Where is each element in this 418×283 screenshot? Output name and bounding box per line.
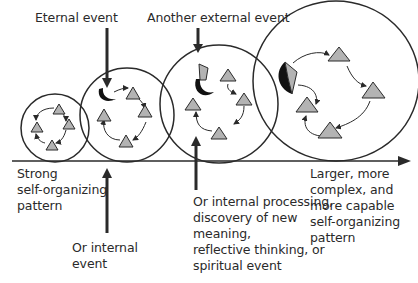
another-external-event-arrow <box>193 28 203 53</box>
triangle-icon <box>328 47 350 61</box>
crescent-icon <box>99 88 116 101</box>
external-event-label: Eternal event <box>35 10 118 26</box>
internal-event-label: Or internal event <box>72 240 138 272</box>
triangle-icon <box>53 104 65 114</box>
stage-3-circle <box>160 45 278 163</box>
triangle-icon <box>63 119 75 129</box>
crescent-icon <box>195 79 214 95</box>
triangle-icon <box>362 82 385 98</box>
another-external-event-label: Another external event <box>147 10 290 26</box>
triangle-icon <box>236 93 252 105</box>
triangle-icon <box>296 97 318 112</box>
end-pattern-label: Larger, more complex, and more capable s… <box>310 166 400 246</box>
triangle-icon <box>185 98 201 110</box>
internal-processing-arrow <box>191 136 201 190</box>
triangle-icon <box>31 122 43 132</box>
triangle-icon <box>97 109 111 121</box>
start-pattern-label: Strong self-organizing pattern <box>17 166 107 214</box>
triangle-icon <box>126 87 140 99</box>
triangle-icon <box>46 140 58 150</box>
triangle-icon <box>211 127 227 139</box>
external-event-arrow <box>102 28 112 88</box>
stage-1-circle <box>21 94 89 162</box>
stage-2-circle <box>80 68 174 162</box>
triangle-icon <box>119 135 133 147</box>
diamond-icon <box>199 64 208 80</box>
triangle-icon <box>318 122 342 138</box>
triangle-icon <box>220 69 236 81</box>
triangle-icon <box>138 105 152 117</box>
